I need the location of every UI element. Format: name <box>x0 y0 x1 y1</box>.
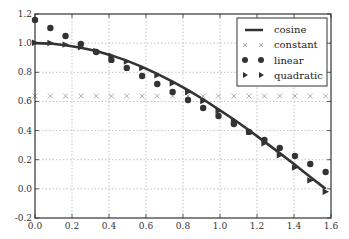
y-tick-label: 1.0 <box>18 38 33 48</box>
x-tick-label: 1.6 <box>324 221 339 231</box>
linear-point <box>185 97 191 103</box>
linear-point <box>169 89 175 95</box>
y-tick-label: 0.0 <box>18 184 33 194</box>
legend-label-cosine: cosine <box>274 24 306 35</box>
x-tick-label: 0.2 <box>65 221 79 231</box>
linear-point <box>215 113 221 119</box>
linear-point <box>124 65 130 71</box>
x-tick-label: 0.8 <box>176 221 191 231</box>
quadratic-point <box>124 58 130 64</box>
linear-point <box>47 25 53 31</box>
y-tick-label: 1.2 <box>18 9 32 19</box>
y-tick-label: 0.6 <box>18 96 33 106</box>
linear-point <box>322 169 328 175</box>
linear-point <box>139 73 145 79</box>
quadratic-point <box>323 189 330 195</box>
x-tick-label: 1.0 <box>213 221 228 231</box>
linear-point <box>277 145 283 151</box>
x-tick-label: 1.2 <box>250 221 264 231</box>
series-constant <box>33 94 329 99</box>
chart: 0.00.20.40.60.81.01.21.41.6 -0.20.00.20.… <box>0 0 349 239</box>
y-tick-label: -0.2 <box>15 213 32 223</box>
linear-point <box>200 105 206 111</box>
legend-label-constant: constant <box>274 39 318 50</box>
x-tick-label: 0.4 <box>102 221 117 231</box>
linear-point <box>307 161 313 167</box>
y-tick-label: 0.2 <box>18 155 32 165</box>
linear-point <box>154 81 160 87</box>
legend: cosine constant linear quadratic <box>237 18 327 86</box>
linear-point <box>62 33 68 39</box>
x-tick-label: 1.4 <box>287 221 302 231</box>
linear-point <box>292 153 298 159</box>
x-tick-label: 0.6 <box>139 221 154 231</box>
quadratic-point <box>47 40 54 46</box>
legend-label-linear: linear <box>274 55 304 66</box>
legend-label-quadratic: quadratic <box>274 70 323 81</box>
y-tick-label: 0.4 <box>18 126 33 136</box>
y-tick-label: 0.8 <box>18 67 33 77</box>
